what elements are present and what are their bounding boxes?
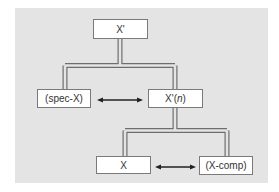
- node-head: X: [96, 156, 151, 174]
- node-x-bar-n: X'(n): [148, 89, 203, 108]
- arrow-spec-to-xbar: [97, 98, 143, 103]
- arrow-head-to-comp: [155, 165, 196, 170]
- node-label: (X-comp): [205, 160, 246, 171]
- node-label: X: [120, 160, 127, 171]
- node-label: X': [116, 24, 125, 35]
- node-complement: (X-comp): [199, 156, 253, 175]
- node-specifier: (spec-X): [37, 89, 91, 108]
- node-x-bar-max: X': [93, 19, 148, 39]
- node-label: (spec-X): [45, 93, 83, 104]
- node-label-end: ): [183, 93, 186, 104]
- node-label-main: X'(: [165, 93, 177, 104]
